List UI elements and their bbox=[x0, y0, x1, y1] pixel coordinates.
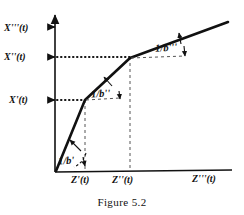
y-axis-label-x3: X'''(t) bbox=[4, 22, 28, 33]
y-axis-label-x1: X'(t) bbox=[9, 94, 28, 105]
slope-label-third-segment: 1/b''' bbox=[155, 41, 178, 54]
figure-caption: Figure 5.2 bbox=[0, 196, 244, 208]
slope-pointer-3-down bbox=[184, 46, 185, 56]
slope-ref-line-3 bbox=[131, 56, 185, 58]
figure-container: X'''(t) X''(t) X'(t) Z'(t) Z''(t) Z'''(t… bbox=[0, 0, 244, 215]
slope-label-second-segment: 1/b'' bbox=[91, 88, 111, 100]
x-axis bbox=[55, 170, 232, 172]
slope-pointer-2-down bbox=[119, 91, 120, 99]
x-axis-label-z2: Z''(t) bbox=[112, 174, 133, 185]
y-axis-label-x2: X''(t) bbox=[4, 51, 26, 62]
piecewise-curve bbox=[56, 22, 228, 171]
x-axis-label-z1: Z'(t) bbox=[71, 174, 89, 185]
x-axis-label-z3: Z'''(t) bbox=[192, 173, 216, 184]
slope-label-first-segment: 1/b' bbox=[58, 155, 75, 167]
slope-pointer-1-up bbox=[70, 140, 81, 151]
